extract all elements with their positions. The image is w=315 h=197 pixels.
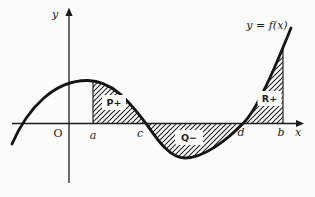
region-p-label: P+ xyxy=(107,97,122,108)
y-axis-label: y xyxy=(51,8,59,21)
mark-c-label: c xyxy=(137,127,143,140)
curve-equation-label: y = f(x) xyxy=(245,19,287,32)
y-axis-arrow-icon xyxy=(65,8,72,17)
x-axis-label: x xyxy=(295,126,302,139)
calculus-area-diagram: y x O a c d b y = f(x) P+ Q− R+ xyxy=(0,0,315,197)
region-r-label: R+ xyxy=(262,93,277,104)
mark-d-label: d xyxy=(237,126,244,139)
diagram-canvas: y x O a c d b y = f(x) P+ Q− R+ xyxy=(0,0,315,197)
region-q-label: Q− xyxy=(181,132,197,143)
origin-label: O xyxy=(53,127,62,140)
mark-b-label: b xyxy=(277,126,284,139)
mark-a-label: a xyxy=(90,129,97,142)
